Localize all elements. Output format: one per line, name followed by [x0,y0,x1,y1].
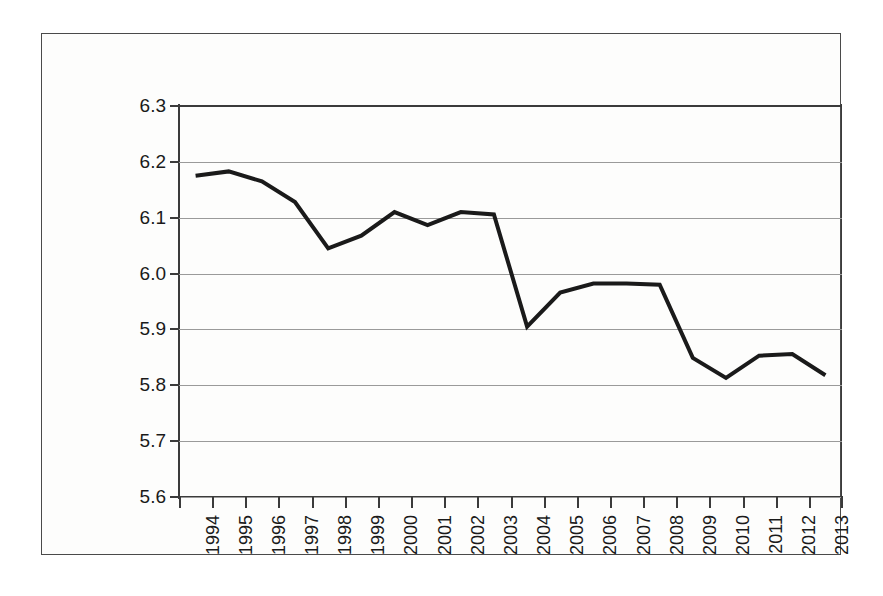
data-line-series [196,171,826,378]
chart-figure-frame: 6.36.26.16.05.95.85.75.6 199419951996199… [41,33,841,555]
line-series-plot [42,34,842,556]
